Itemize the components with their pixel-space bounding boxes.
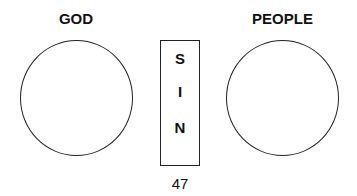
god-label: GOD (46, 10, 106, 27)
page-number: 47 (165, 175, 195, 192)
sin-letter-s: S (161, 50, 199, 67)
sin-letter-i: I (161, 83, 199, 100)
sin-box: S I N (160, 40, 200, 166)
sin-letter-n: N (161, 119, 199, 136)
people-circle (226, 40, 339, 156)
people-label: PEOPLE (240, 10, 325, 27)
god-circle (20, 40, 133, 156)
